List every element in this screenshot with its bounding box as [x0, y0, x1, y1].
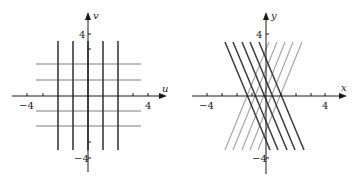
x-tick-4: 4: [322, 100, 328, 111]
left-axes: [12, 18, 160, 172]
y-tick-neg4: −4: [252, 153, 267, 164]
y-axis-arrow-icon: [263, 12, 269, 20]
v-tick-neg4: −4: [74, 153, 89, 164]
right-axes: [192, 18, 340, 174]
right-plot: x y −4 4 4 −4: [192, 10, 347, 174]
u-tick-neg4: −4: [19, 100, 34, 111]
x-tick-neg4: −4: [199, 100, 214, 111]
y-tick-4: 4: [256, 29, 262, 40]
u-axis-label: u: [162, 83, 168, 94]
v-axis-arrow-icon: [85, 12, 91, 20]
y-axis-label: y: [270, 10, 277, 21]
figure-canvas: u v −4 4 4 −4: [0, 0, 361, 182]
x-axis-arrow-icon: [339, 93, 347, 99]
x-axis-label: x: [341, 82, 347, 93]
left-plot: u v −4 4 4 −4: [12, 10, 168, 172]
v-tick-4: 4: [79, 29, 85, 40]
u-tick-4: 4: [145, 100, 151, 111]
v-axis-label: v: [93, 10, 99, 21]
